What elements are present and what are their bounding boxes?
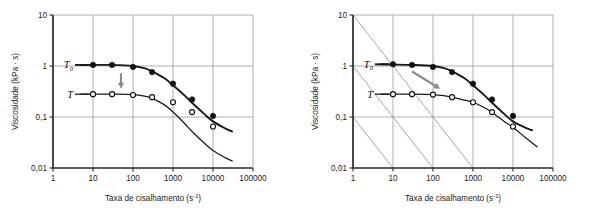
y-axis-title: Viscosidade (kPa · s): [311, 53, 320, 130]
x-tick-label: 1000: [164, 174, 183, 183]
data-point-T0: [130, 64, 135, 69]
fit-curve-T-fit: [81, 94, 232, 161]
data-point-T: [450, 95, 455, 100]
x-tick-label: 10: [388, 174, 398, 183]
data-point-T: [211, 124, 216, 129]
x-tick-label: 100000: [239, 174, 267, 183]
data-point-T0: [170, 81, 175, 86]
chart-panel-right: 1101001000100001000001010,10,01 T0TTaxa …: [300, 0, 600, 216]
x-tick-label: 10000: [502, 174, 525, 183]
x-tick-label: 1000: [464, 174, 483, 183]
fit-curve-T0-fit: [81, 65, 232, 132]
data-point-T0: [489, 97, 494, 102]
y-tick-label: 10: [338, 11, 348, 20]
x-axis-title: Taxa de cisalhamento (s-1): [105, 193, 201, 203]
x-tick-label: 10000: [202, 174, 225, 183]
data-point-T0: [390, 62, 395, 67]
data-point-T: [190, 110, 195, 115]
data-point-T: [171, 100, 176, 105]
x-tick-label: 100: [426, 174, 440, 183]
data-point-T0: [430, 64, 435, 69]
x-tick-label: 100000: [539, 174, 567, 183]
data-point-T0: [409, 62, 414, 67]
data-point-T: [391, 92, 396, 97]
data-point-T0: [210, 113, 215, 118]
y-tick-label: 0,01: [31, 164, 47, 173]
arrow-down-head: [118, 83, 124, 89]
fit-curve-T-fit: [381, 94, 537, 147]
data-point-T0: [109, 62, 114, 67]
chart-svg-left: 1101001000100001000001010,10,01 T0TTaxa …: [0, 0, 300, 216]
data-point-T: [471, 100, 476, 105]
data-point-T0: [90, 62, 95, 67]
grid-lines-right: [353, 15, 553, 168]
y-tick-label: 0,1: [336, 113, 348, 122]
y-axis-title: Viscosidade (kPa · s): [11, 53, 20, 130]
y-tick-label: 1: [342, 62, 347, 71]
series-label-T: T: [67, 89, 74, 100]
data-point-T0: [149, 69, 154, 74]
two-panel-viscosity-figure: 1101001000100001000001010,10,01 T0TTaxa …: [0, 0, 600, 216]
series-label-T0: T0: [364, 59, 374, 71]
data-point-T0: [470, 81, 475, 86]
data-point-T: [410, 92, 415, 97]
y-tick-label: 0,01: [331, 164, 347, 173]
x-tick-label: 1: [351, 174, 356, 183]
grid-lines-left: [53, 15, 253, 168]
y-tick-label: 0,1: [36, 113, 48, 122]
series-label-T0: T0: [64, 59, 74, 71]
x-tick-label: 100: [126, 174, 140, 183]
annotation-arrow-right: [412, 72, 440, 89]
x-tick-label: 1: [51, 174, 56, 183]
x-tick-label: 10: [88, 174, 98, 183]
chart-panel-left: 1101001000100001000001010,10,01 T0TTaxa …: [0, 0, 300, 216]
data-points-left: [90, 62, 215, 129]
arrow-diagonal-shaft: [412, 72, 436, 87]
data-point-T: [91, 92, 96, 97]
y-tick-label: 1: [42, 62, 47, 71]
data-point-T: [131, 93, 136, 98]
chart-svg-right: 1101001000100001000001010,10,01 T0TTaxa …: [300, 0, 600, 216]
data-point-T: [490, 110, 495, 115]
data-point-T0: [510, 113, 515, 118]
data-point-T: [511, 124, 516, 129]
data-point-T: [431, 92, 436, 97]
series-label-T: T: [367, 89, 374, 100]
data-point-T0: [449, 69, 454, 74]
x-axis-title: Taxa de cisalhamento (s-1): [405, 193, 501, 203]
annotation-arrow-left: [118, 73, 124, 88]
fit-curves-left: [81, 65, 232, 161]
axis-frame-left: [53, 15, 253, 168]
data-point-T: [150, 95, 155, 100]
data-points-right: [390, 62, 515, 129]
data-point-T0: [189, 97, 194, 102]
y-tick-label: 10: [38, 11, 48, 20]
data-point-T: [110, 92, 115, 97]
fit-curves-right: [381, 64, 537, 147]
axis-frame-right: [353, 15, 553, 168]
fit-curve-T0-fit: [381, 64, 532, 130]
